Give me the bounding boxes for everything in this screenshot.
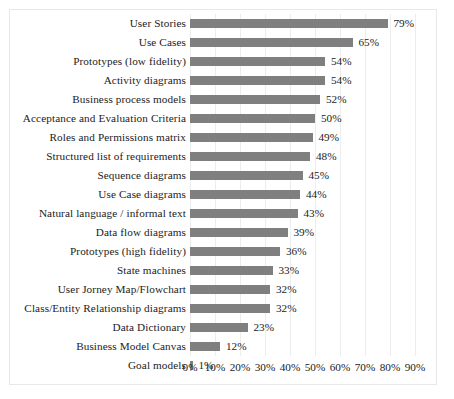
- bar: [190, 304, 270, 313]
- bar-container: 12%: [190, 337, 454, 356]
- category-label: User Jorney Map/Flowchart: [58, 280, 186, 299]
- bar-row: User Stories79%: [0, 14, 454, 33]
- bar-value-label: 44%: [306, 185, 327, 204]
- bar-row: Structured list of requirements48%: [0, 147, 454, 166]
- category-label: Structured list of requirements: [46, 147, 186, 166]
- category-label: Sequence diagrams: [97, 166, 186, 185]
- bar-container: 32%: [190, 299, 454, 318]
- category-label: Use Case diagrams: [98, 185, 186, 204]
- bar-rows: User Stories79%Use Cases65%Prototypes (l…: [0, 14, 454, 356]
- category-label: User Stories: [130, 14, 186, 33]
- category-label: Prototypes (low fidelity): [73, 52, 186, 71]
- category-label: Use Cases: [139, 33, 186, 52]
- bar-container: 79%: [190, 14, 454, 33]
- bar: [190, 114, 315, 123]
- bar-value-label: 52%: [326, 90, 347, 109]
- bar-value-label: 79%: [394, 14, 415, 33]
- category-label: Roles and Permissions matrix: [50, 128, 186, 147]
- bar: [190, 190, 300, 199]
- bar-row: Data Dictionary23%: [0, 318, 454, 337]
- bar: [190, 19, 388, 28]
- bar-value-label: 23%: [254, 318, 275, 337]
- bar-value-label: 65%: [359, 33, 380, 52]
- bar-row: Business process models52%: [0, 90, 454, 109]
- bar-container: 49%: [190, 128, 454, 147]
- bar-container: 33%: [190, 261, 454, 280]
- bar-value-label: 50%: [321, 109, 342, 128]
- category-label: Business Model Canvas: [76, 337, 186, 356]
- bar-row: Business Model Canvas12%: [0, 337, 454, 356]
- bar-row: Sequence diagrams45%: [0, 166, 454, 185]
- category-label: Data Dictionary: [113, 318, 186, 337]
- bar-container: 23%: [190, 318, 454, 337]
- bar: [190, 76, 325, 85]
- x-axis-tick-label: 40%: [280, 358, 301, 376]
- category-label: Activity diagrams: [104, 71, 186, 90]
- bar: [190, 285, 270, 294]
- x-axis-tick-label: 20%: [230, 358, 251, 376]
- category-label: Data flow diagrams: [96, 223, 186, 242]
- bar-container: 54%: [190, 52, 454, 71]
- x-axis-tick-label: 70%: [355, 358, 376, 376]
- bar-chart: User Stories79%Use Cases65%Prototypes (l…: [0, 0, 454, 399]
- bar-row: Class/Entity Relationship diagrams32%: [0, 299, 454, 318]
- bar-container: 36%: [190, 242, 454, 261]
- x-axis-tick-label: 10%: [205, 358, 226, 376]
- bar-value-label: 32%: [276, 280, 297, 299]
- bar-value-label: 43%: [304, 204, 325, 223]
- x-axis-tick-label: 50%: [305, 358, 326, 376]
- x-axis-tick-label: 30%: [255, 358, 276, 376]
- bar-value-label: 49%: [319, 128, 340, 147]
- bar: [190, 342, 220, 351]
- bar-row: Prototypes (high fidelity)36%: [0, 242, 454, 261]
- bar-container: 54%: [190, 71, 454, 90]
- x-axis-tick-label: 80%: [380, 358, 401, 376]
- bar-container: 32%: [190, 280, 454, 299]
- bar-container: 44%: [190, 185, 454, 204]
- bar: [190, 95, 320, 104]
- bar-container: 65%: [190, 33, 454, 52]
- bar-container: 48%: [190, 147, 454, 166]
- bar-container: 43%: [190, 204, 454, 223]
- bar: [190, 323, 248, 332]
- bar: [190, 57, 325, 66]
- bar-value-label: 36%: [286, 242, 307, 261]
- bar-row: Natural language / informal text43%: [0, 204, 454, 223]
- bar: [190, 209, 298, 218]
- category-label: Business process models: [72, 90, 186, 109]
- bar-row: Use Cases65%: [0, 33, 454, 52]
- bar: [190, 152, 310, 161]
- bar-row: User Jorney Map/Flowchart32%: [0, 280, 454, 299]
- bar: [190, 247, 280, 256]
- bar-container: 50%: [190, 109, 454, 128]
- x-axis-tick-label: 0%: [183, 358, 198, 376]
- bar-row: Data flow diagrams39%: [0, 223, 454, 242]
- bar: [190, 266, 273, 275]
- bar-row: Use Case diagrams44%: [0, 185, 454, 204]
- bar-container: 45%: [190, 166, 454, 185]
- bar-row: Roles and Permissions matrix49%: [0, 128, 454, 147]
- bar: [190, 228, 288, 237]
- bar: [190, 38, 353, 47]
- x-axis-tick-label: 60%: [330, 358, 351, 376]
- bar-container: 39%: [190, 223, 454, 242]
- bar-value-label: 48%: [316, 147, 337, 166]
- bar-row: Prototypes (low fidelity)54%: [0, 52, 454, 71]
- x-axis-tick-label: 90%: [405, 358, 426, 376]
- bar: [190, 171, 303, 180]
- bar: [190, 133, 313, 142]
- bar-value-label: 12%: [226, 337, 247, 356]
- bar-container: 52%: [190, 90, 454, 109]
- category-label: Prototypes (high fidelity): [70, 242, 186, 261]
- bar-row: Acceptance and Evaluation Criteria50%: [0, 109, 454, 128]
- bar-value-label: 45%: [309, 166, 330, 185]
- bar-value-label: 33%: [279, 261, 300, 280]
- bar-row: Activity diagrams54%: [0, 71, 454, 90]
- bar-value-label: 54%: [331, 71, 352, 90]
- category-label: Goal models: [128, 356, 186, 375]
- bar-row: State machines33%: [0, 261, 454, 280]
- bar-value-label: 39%: [294, 223, 315, 242]
- category-label: Natural language / informal text: [39, 204, 186, 223]
- bar-value-label: 54%: [331, 52, 352, 71]
- category-label: State machines: [117, 261, 186, 280]
